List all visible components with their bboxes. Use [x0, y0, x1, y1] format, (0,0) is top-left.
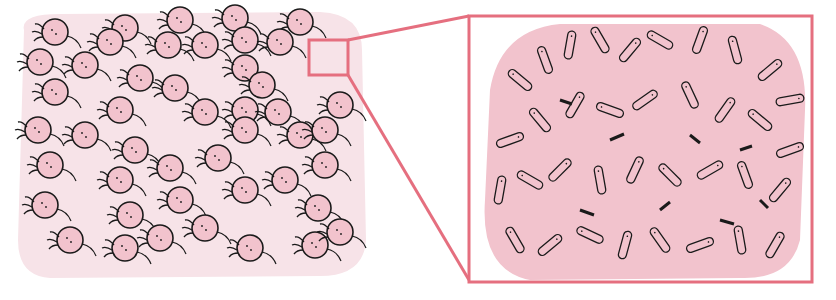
magnified-inset [469, 16, 812, 282]
cell-colony-illustration [0, 0, 836, 300]
colony-panel [15, 5, 366, 278]
